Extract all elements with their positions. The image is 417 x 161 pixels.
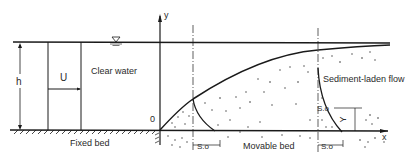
origin-label: 0 — [150, 115, 155, 124]
s0-right-label: S.o — [321, 143, 333, 151]
velocity-label: U — [60, 73, 67, 83]
front-profile-1 — [193, 99, 215, 131]
water-level-icon — [110, 37, 122, 46]
wall-hatching — [155, 133, 159, 143]
s0-left-label: S.o — [197, 143, 209, 151]
x-axis-label: x — [382, 133, 387, 142]
water-surface-line — [13, 42, 390, 43]
movable-bed-label: Movable bed — [243, 142, 295, 151]
sediment-particles — [167, 51, 384, 147]
sediment-flow-label: Sediment-laden flow — [323, 75, 405, 84]
y-axis-label: y — [164, 11, 169, 20]
s0-vertical-label: S.o — [317, 105, 329, 113]
velocity-profile-box — [48, 42, 81, 130]
fixed-bed-label: Fixed bed — [70, 139, 110, 148]
bed-line — [10, 130, 388, 131]
Y-dimension-label: Y — [339, 116, 348, 122]
sediment-front-envelope — [160, 45, 390, 130]
depth-label: h — [16, 77, 22, 87]
clear-water-label: Clear water — [91, 67, 137, 76]
